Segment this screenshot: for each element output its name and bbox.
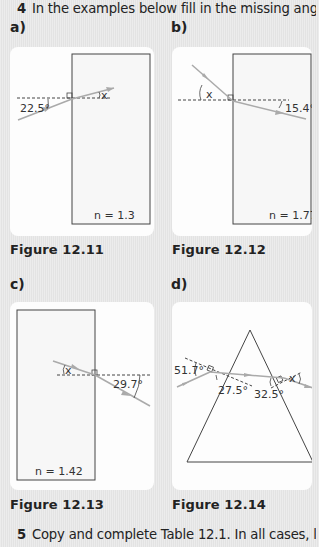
prism-diagram-d: 51.7° 27.5° 32.5° x bbox=[172, 302, 312, 490]
refractive-index-label: n = 1.77 bbox=[269, 209, 312, 222]
part-label-b: b) bbox=[171, 19, 187, 35]
glass-block bbox=[72, 54, 150, 224]
figure-12-13-panel: x 29.7° n = 1.42 bbox=[10, 302, 154, 490]
angle-label-1: 51.7° bbox=[174, 364, 204, 377]
refraction-diagram-c: x 29.7° n = 1.42 bbox=[10, 302, 154, 490]
arrowhead-icon bbox=[182, 382, 189, 386]
unknown-angle-label: x bbox=[101, 89, 108, 102]
right-angle-marker bbox=[67, 93, 72, 98]
refractive-index-label: n = 1.42 bbox=[35, 465, 83, 478]
refraction-diagram-b: x 15.4° n = 1.77 bbox=[172, 47, 312, 236]
glass-block bbox=[17, 310, 95, 480]
figure-caption-12-12: Figure 12.12 bbox=[172, 242, 266, 257]
angle-arc bbox=[216, 375, 217, 380]
part-label-d: d) bbox=[171, 276, 187, 292]
figure-12-14-panel: 51.7° 27.5° 32.5° x bbox=[172, 302, 312, 490]
question-number: 4 bbox=[17, 1, 26, 16]
arrowhead-icon bbox=[304, 384, 312, 388]
question-text: Copy and complete Table 12.1. In all cas… bbox=[32, 527, 316, 542]
angle-label: 29.7° bbox=[113, 378, 143, 391]
part-label-a: a) bbox=[10, 19, 26, 35]
angle-label: 15.4° bbox=[285, 102, 312, 115]
angle-arc bbox=[200, 85, 202, 100]
glass-block bbox=[233, 54, 311, 224]
figure-caption-12-11: Figure 12.11 bbox=[10, 242, 104, 257]
part-label-c: c) bbox=[10, 276, 25, 292]
question-text: In the examples below fill in the missin… bbox=[32, 1, 316, 16]
prism bbox=[187, 330, 312, 462]
refractive-index-label: n = 1.3 bbox=[94, 209, 135, 222]
figure-caption-12-14: Figure 12.14 bbox=[172, 497, 266, 512]
question-number: 5 bbox=[17, 527, 26, 542]
angle-label-3: 32.5° bbox=[254, 388, 284, 401]
figure-caption-12-13: Figure 12.13 bbox=[10, 497, 104, 512]
refraction-diagram-a: 22.5° x n = 1.3 bbox=[10, 47, 154, 236]
normal-line-2 bbox=[271, 372, 302, 388]
angle-label: 22.5° bbox=[20, 102, 50, 115]
unknown-angle-label: x bbox=[65, 364, 72, 377]
question-5: 5Copy and complete Table 12.1. In all ca… bbox=[0, 527, 316, 542]
figure-12-12-panel: x 15.4° n = 1.77 bbox=[172, 47, 312, 236]
angle-label-2: 27.5° bbox=[218, 384, 248, 397]
unknown-angle-label: x bbox=[289, 372, 296, 385]
unknown-angle-label: x bbox=[206, 88, 213, 101]
question-4: 4In the examples below fill in the missi… bbox=[0, 1, 316, 16]
figure-12-11-panel: 22.5° x n = 1.3 bbox=[10, 47, 154, 236]
